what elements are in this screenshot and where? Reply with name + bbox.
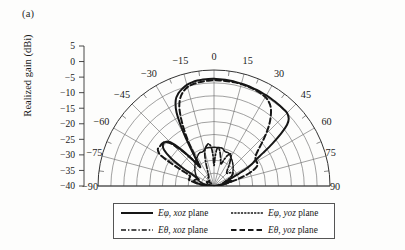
- figure-panel: (a) Realized gain (dBi) 50−5−10−15−20−25…: [0, 0, 405, 250]
- angular-tick-label: 75: [326, 147, 336, 158]
- legend-label: Eφ, yoz plane: [268, 208, 318, 218]
- legend-item-etheta-xoz: Eθ, xoz plane: [114, 225, 224, 235]
- radial-tick-label: −15: [60, 103, 75, 114]
- radial-tick-label: −20: [60, 118, 75, 129]
- radial-tick-label: −30: [60, 149, 75, 160]
- grid-minor-tick: [302, 115, 306, 118]
- angular-tick-label: 60: [321, 116, 331, 127]
- angular-tick-label: −60: [93, 116, 109, 127]
- legend-item-ephi-xoz: Eφ, xoz plane: [114, 208, 224, 218]
- radial-tick-label: −25: [60, 134, 75, 145]
- legend-item-etheta-yoz: Eθ, yoz plane: [224, 225, 334, 235]
- grid-spoke: [132, 104, 214, 186]
- radial-axis-ticks: [79, 46, 84, 186]
- radial-tick-label: −10: [60, 87, 75, 98]
- legend-swatch-dashed: [230, 225, 264, 235]
- grid-spoke: [184, 74, 214, 186]
- curve-dashed: [158, 80, 271, 186]
- angular-tick-label: −75: [86, 147, 102, 158]
- radial-tick-label: −35: [60, 165, 75, 176]
- legend-grid: Eφ, xoz planeEφ, yoz planeEθ, xoz planeE…: [114, 204, 334, 238]
- angular-tick-label: −90: [82, 181, 98, 192]
- angular-tick-labels: −90−75−60−45−30−150153045607590: [82, 51, 340, 192]
- grid-minor-tick: [99, 171, 104, 172]
- grid-minor-tick: [317, 142, 322, 144]
- grid-minor-tick: [143, 94, 146, 98]
- grid-minor-tick: [199, 71, 200, 76]
- grid-minor-tick: [107, 142, 112, 144]
- legend-label: Eφ, xoz plane: [158, 208, 208, 218]
- grid-minor-tick: [256, 79, 258, 84]
- legend-label: Eθ, xoz plane: [158, 225, 208, 235]
- angular-tick-label: −30: [141, 68, 157, 79]
- grid-spokes: [98, 70, 330, 186]
- radial-tick-label: −5: [65, 72, 75, 83]
- angular-tick-label: −15: [172, 55, 188, 66]
- grid-minor-tick: [228, 71, 229, 76]
- grid-minor-tick: [170, 79, 172, 84]
- legend-item-ephi-yoz: Eφ, yoz plane: [224, 208, 334, 218]
- legend: Eφ, xoz planeEφ, yoz planeEθ, xoz planeE…: [113, 203, 335, 239]
- angular-tick-label: 0: [211, 51, 216, 62]
- legend-swatch-solid-thick: [120, 208, 154, 218]
- radial-tick-label: 5: [70, 40, 75, 51]
- angular-tick-label: −45: [114, 89, 130, 100]
- grid-minor-tick: [122, 115, 126, 118]
- grid-spoke: [214, 74, 244, 186]
- legend-label: Eθ, yoz plane: [268, 225, 318, 235]
- legend-swatch-fine-dotted: [230, 208, 264, 218]
- angular-tick-label: 90: [330, 181, 340, 192]
- grid-minor-tick: [324, 171, 329, 172]
- radial-axis-tick-labels: 50−5−10−15−20−25−30−35−40: [60, 40, 75, 191]
- angular-tick-label: 15: [243, 55, 253, 66]
- angular-tick-label: 45: [301, 89, 311, 100]
- angular-tick-label: 30: [274, 68, 284, 79]
- grid-minor-tick: [282, 94, 285, 98]
- legend-swatch-dash-dot: [120, 225, 154, 235]
- radial-tick-label: −40: [60, 180, 75, 191]
- radial-tick-label: 0: [70, 56, 75, 67]
